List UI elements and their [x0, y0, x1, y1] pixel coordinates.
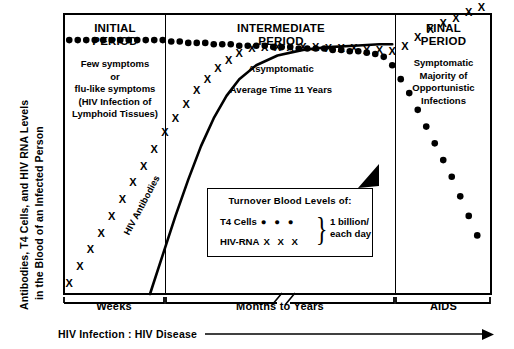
legend-box: Turnover Blood Levels of: T4 Cells● ● ● … [207, 188, 373, 257]
hiv-disease-progression-figure: Antibodies, T4 Cells, and HIV RNA Levels… [0, 0, 514, 349]
period-final-title-line2: PERIOD [396, 35, 491, 48]
period-intermediate-title-line2: PERIOD [168, 35, 394, 48]
period-initial-body-line2: or [66, 71, 164, 84]
x-axis-tick-weeks: Weeks [63, 300, 165, 312]
legend-marker-filled-circle-icon: ● ● ● [261, 216, 296, 227]
period-final-body-line4: Infections [396, 95, 491, 108]
period-initial-body-line1: Few symptoms [66, 58, 164, 71]
y-axis-label: Antibodies, T4 Cells, and HIV RNA Levels… [0, 0, 62, 320]
period-intermediate-body: Asymptomatic Average Time 11 Years [168, 62, 394, 96]
period-initial-title-line2: PERIOD [66, 35, 164, 48]
legend-label-hiv-rna: HIV-RNA [220, 236, 259, 247]
period-initial-title: INITIAL PERIOD [66, 22, 164, 48]
legend-marker-x-icon: X X X [263, 236, 300, 247]
period-initial-body-line4: (HIV Infection of [66, 96, 164, 109]
period-block-initial: INITIAL PERIOD Few symptoms or flu-like … [66, 22, 164, 121]
legend-title: Turnover Blood Levels of: [208, 195, 372, 206]
period-intermediate-body-line2: Average Time 11 Years [168, 83, 394, 97]
period-intermediate-body-line1: Asymptomatic [168, 62, 394, 76]
x-axis-tick-aids: AIDS [395, 300, 492, 312]
period-block-final: FINAL PERIOD Symptomatic Majority of Opp… [396, 22, 491, 107]
progression-arrow-icon [205, 329, 494, 340]
period-final-title-line1: FINAL [396, 22, 491, 35]
period-initial-body-line3: flu-like symptoms [66, 83, 164, 96]
legend-rate-line2: each day [330, 228, 371, 240]
y-axis-label-line1: Antibodies, T4 Cells, and HIV RNA Levels [19, 100, 30, 310]
progression-label: HIV Infection : HIV Disease [58, 328, 197, 340]
data-point-hiv-rna: X [478, 1, 486, 13]
period-intermediate-body-spacer [168, 76, 394, 83]
y-axis-label-line2: in the Blood of an Infected Person [34, 126, 45, 300]
legend-label-t4-cells: T4 Cells [220, 216, 257, 227]
period-final-body-line3: Opportunistic [396, 82, 491, 95]
period-intermediate-title-line1: INTERMEDIATE [168, 22, 394, 35]
legend-row-t4-cells: T4 Cells● ● ● [220, 216, 296, 227]
period-final-body-line1: Symptomatic [396, 57, 491, 70]
legend-brace-icon: } [316, 212, 327, 246]
period-initial-body: Few symptoms or flu-like symptoms (HIV I… [66, 58, 164, 121]
period-intermediate-title: INTERMEDIATE PERIOD [168, 22, 394, 48]
legend-rate-text: 1 billion/ each day [330, 216, 371, 239]
period-initial-title-line1: INITIAL [66, 22, 164, 35]
period-initial-body-line5: Lymphoid Tissues) [66, 108, 164, 121]
legend-rate-line1: 1 billion/ [330, 216, 371, 228]
phase-divider-initial-intermediate [165, 13, 166, 295]
x-axis-tick-months-to-years: Months to Years [165, 300, 395, 312]
period-block-intermediate: INTERMEDIATE PERIOD Asymptomatic Average… [168, 22, 394, 96]
period-final-body-line2: Majority of [396, 70, 491, 83]
period-final-title: FINAL PERIOD [396, 22, 491, 48]
period-final-body: Symptomatic Majority of Opportunistic In… [396, 57, 491, 107]
legend-row-hiv-rna: HIV-RNAX X X [220, 236, 300, 247]
